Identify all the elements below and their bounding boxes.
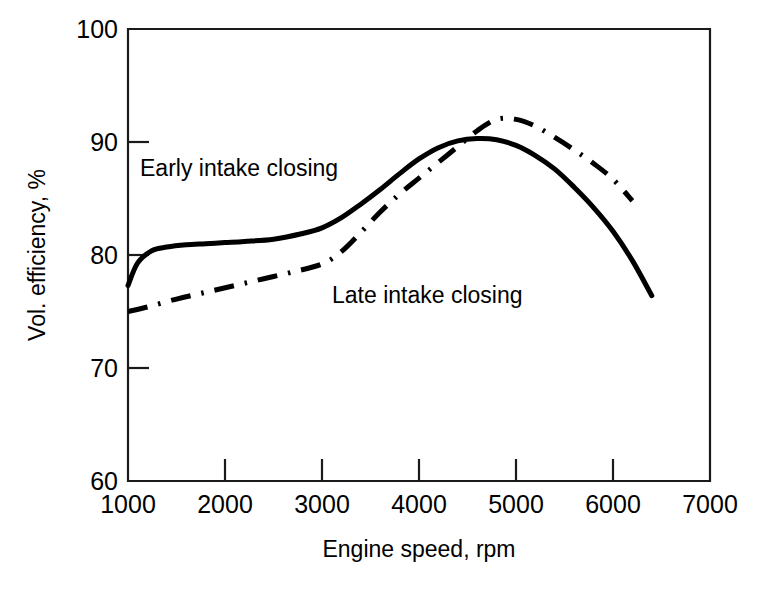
y-axis-tick-labels: 100 90 80 70 60 xyxy=(76,15,118,495)
y-axis-title: Vol. efficiency, % xyxy=(24,169,50,341)
x-tick-label-2000: 2000 xyxy=(197,490,253,518)
y-tick-label-90: 90 xyxy=(90,128,118,156)
annotation-late-intake-closing: Late intake closing xyxy=(332,282,523,308)
x-axis-ticks xyxy=(225,459,613,481)
x-tick-label-7000: 7000 xyxy=(682,490,738,518)
x-tick-label-3000: 3000 xyxy=(294,490,350,518)
x-axis-title: Engine speed, rpm xyxy=(322,536,515,562)
series-annotations: Early intake closing Late intake closing xyxy=(140,155,523,308)
x-axis-tick-labels: 1000 2000 3000 4000 5000 6000 7000 xyxy=(100,490,738,518)
annotation-early-intake-closing: Early intake closing xyxy=(140,155,338,181)
chart-container: 100 90 80 70 60 1000 2000 3000 4000 5000… xyxy=(0,0,760,597)
x-tick-label-5000: 5000 xyxy=(488,490,544,518)
y-tick-label-80: 80 xyxy=(90,241,118,269)
x-tick-label-1000: 1000 xyxy=(100,490,156,518)
volumetric-efficiency-chart: 100 90 80 70 60 1000 2000 3000 4000 5000… xyxy=(0,0,760,597)
y-tick-label-100: 100 xyxy=(76,15,118,43)
x-tick-label-6000: 6000 xyxy=(585,490,641,518)
y-tick-label-70: 70 xyxy=(90,354,118,382)
plot-frame xyxy=(128,29,710,481)
plot-border xyxy=(128,29,710,481)
x-tick-label-4000: 4000 xyxy=(391,490,447,518)
